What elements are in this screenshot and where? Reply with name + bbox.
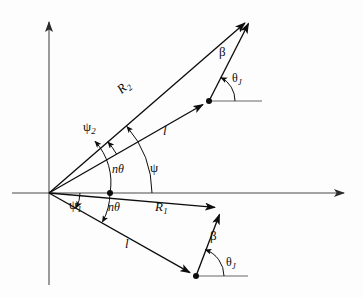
label-l-upper: l <box>163 124 167 137</box>
vector-beta-lower <box>196 215 220 277</box>
label-l-lower: l <box>125 237 129 250</box>
label-beta-lower: β <box>210 229 217 242</box>
joint-dot-axis <box>107 190 113 196</box>
label-psi-2: ψ2 <box>83 120 96 136</box>
joint-dot-lower-elbow <box>193 273 199 279</box>
label-theta-J-upper: θJ <box>232 72 242 87</box>
label-psi: ψ <box>150 161 158 174</box>
label-psi-1: ψ1 <box>69 198 82 214</box>
arc-theta-J-lower <box>205 250 224 276</box>
label-n-theta-upper: nθ <box>112 163 124 175</box>
label-beta-upper: β <box>219 45 226 58</box>
vector-diagram-figure: R2 R1 l l β β θJ θJ ψ ψ1 ψ2 nθ nθ <box>0 0 363 298</box>
arc-psi-2 <box>108 142 117 154</box>
label-n-theta-lower: nθ <box>108 201 120 213</box>
joint-dot-group <box>107 98 212 279</box>
axis-group <box>12 22 344 285</box>
diagram-canvas <box>0 0 363 298</box>
vector-l-upper <box>49 105 203 194</box>
vector-R2 <box>49 23 245 193</box>
arc-n-theta-upper <box>95 141 111 193</box>
vector-beta-upper <box>209 24 249 102</box>
label-theta-J-lower: θJ <box>226 256 236 271</box>
label-R1: R1 <box>155 200 168 216</box>
joint-dot-upper-elbow <box>206 98 212 104</box>
